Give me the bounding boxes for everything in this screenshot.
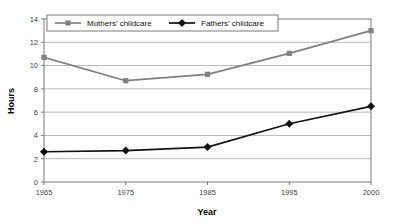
y-tick-label: 10 [30, 61, 38, 70]
x-axis-ticks: 19651975198519952000 [36, 182, 380, 197]
legend-label: Mothers' childcare [87, 19, 152, 28]
x-tick-label: 1985 [199, 188, 216, 197]
data-point-marker [285, 120, 293, 128]
chart-legend: Mothers' childcareFathers' childcare [47, 15, 278, 31]
series-fathers-childcare [40, 102, 375, 155]
y-tick-label: 6 [34, 108, 38, 117]
data-series-group [40, 28, 375, 156]
x-tick-label: 2000 [363, 188, 380, 197]
data-point-marker [123, 78, 128, 83]
y-tick-label: 12 [30, 38, 38, 47]
data-point-marker [368, 28, 373, 33]
y-axis-title: Hours [6, 88, 16, 114]
y-tick-label: 2 [34, 155, 38, 164]
y-tick-label: 0 [34, 178, 38, 187]
chart-container: 02468101214 19651975198519952000 Mothers… [0, 0, 396, 224]
data-point-marker [205, 72, 210, 77]
legend-label: Fathers' childcare [201, 19, 264, 28]
data-point-marker [41, 55, 46, 60]
y-tick-label: 8 [34, 85, 38, 94]
y-tick-label: 4 [34, 131, 38, 140]
x-tick-label: 1975 [117, 188, 134, 197]
y-axis-ticks: 02468101214 [30, 15, 44, 187]
legend-square-icon [65, 20, 70, 25]
data-point-marker [287, 51, 292, 56]
data-point-marker [367, 102, 375, 110]
y-tick-label: 14 [30, 15, 38, 24]
x-tick-label: 1965 [36, 188, 53, 197]
line-chart: 02468101214 19651975198519952000 Mothers… [0, 0, 396, 224]
gridlines [44, 42, 371, 158]
x-tick-label: 1995 [281, 188, 298, 197]
data-point-marker [40, 148, 48, 156]
x-axis-title: Year [197, 207, 217, 217]
data-point-marker [203, 143, 211, 151]
series-mothers-childcare [41, 28, 373, 83]
data-point-marker [122, 147, 130, 155]
